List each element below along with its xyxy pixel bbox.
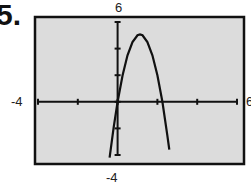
plot-background [35, 17, 244, 164]
xmax-label: 6 [246, 94, 251, 109]
xmin-label: -4 [11, 94, 23, 109]
ymax-label: 6 [115, 0, 122, 15]
graph-window [0, 0, 251, 187]
ymin-label: -4 [106, 170, 118, 185]
